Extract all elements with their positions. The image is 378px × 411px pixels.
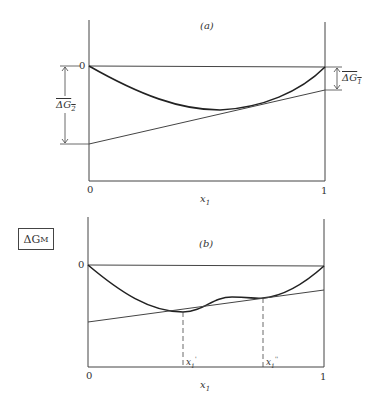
panel-b-x-tick-1: 1: [320, 372, 326, 382]
panel-b-x-axis-label: x1: [200, 380, 210, 393]
panel-a-x-tick-1: 1: [321, 186, 327, 196]
panel-a-gibbs-curve: [89, 66, 325, 110]
panel-a-x-axis-label: x1: [200, 194, 210, 207]
panel-a-left-intercept-label: ΔG2: [56, 100, 76, 113]
panel-b-common-tangent: [88, 290, 324, 322]
panel-a-y-zero: 0: [79, 61, 85, 71]
panel-a: [60, 20, 342, 181]
y-axis-label-box: ΔGM: [18, 228, 54, 250]
panel-b-y-zero: 0: [78, 260, 84, 270]
panel-b-zero-line: [88, 265, 324, 266]
panel-b-x1doubleprime-label: x1'': [266, 356, 278, 369]
diagram-canvas: [0, 0, 378, 411]
panel-b-x1prime-label: x1': [186, 356, 197, 369]
panel-b-x-tick-0: 0: [86, 371, 92, 381]
panel-a-right-intercept-label: ΔG1: [342, 73, 362, 86]
panel-a-x-tick-0: 0: [87, 185, 93, 195]
panel-a-label: (a): [200, 21, 214, 31]
panel-a-zero-line: [89, 66, 325, 67]
panel-b-gibbs-curve: [88, 265, 324, 312]
panel-a-tangent-line: [89, 90, 325, 144]
panel-b-label: (b): [199, 239, 213, 249]
